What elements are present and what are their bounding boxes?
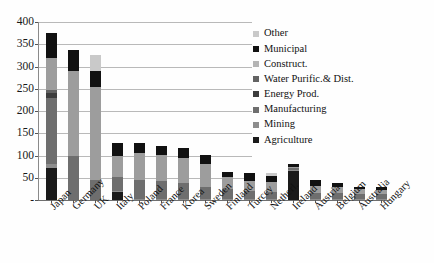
y-tick-mark [35,200,38,201]
y-tick-mark [35,156,38,157]
legend-swatch-icon [253,107,259,113]
y-tick-mark [35,133,38,134]
legend-swatch-icon [253,61,259,67]
legend-item-label: Manufacturing [264,104,326,115]
bar-segment [46,98,57,165]
bar-segment [68,50,79,71]
bar-segment [244,173,255,181]
bar-segment [134,143,145,153]
bar-segment [200,155,211,165]
legend-item-label: Other [264,28,288,39]
y-tick-label: 400 [17,16,34,28]
legend-item-label: Construct. [264,59,307,70]
y-tick-mark [35,89,38,90]
bar-segment [112,177,123,191]
bar-segment [46,33,57,57]
legend-swatch-icon [253,76,259,82]
y-tick-mark [35,22,38,23]
bar-segment [178,148,189,159]
legend-swatch-icon [253,137,259,143]
y-tick-label: 150 [17,127,34,139]
y-tick-label: 100 [17,150,34,162]
y-tick-mark [35,67,38,68]
bar-poland [134,143,145,200]
legend-item[interactable]: Agriculture [253,132,383,147]
bar-japan [46,33,57,200]
x-axis-labels: JapanGermanyUKItalyPolandFranceKoreaSwed… [0,200,434,263]
bar-segment [68,71,79,156]
legend-item-label: Energy Prod. [264,89,319,100]
legend-item[interactable]: Manufacturing [253,102,383,117]
legend-item[interactable]: Construct. [253,56,383,71]
legend-swatch-icon [253,31,259,37]
bar-segment [156,146,167,155]
legend-item[interactable]: Energy Prod. [253,87,383,102]
legend-item-label: Municipal [264,44,307,55]
bar-segment [112,156,123,177]
legend-item-label: Agriculture [264,135,312,146]
y-axis-labels: 40035030025020015010050- [0,22,34,201]
legend-item[interactable]: Mining [253,117,383,132]
y-tick-label: 350 [17,38,34,50]
bar-segment [134,153,145,181]
legend-item[interactable]: Municipal [253,41,383,56]
chart-figure: 40035030025020015010050- JapanGermanyUKI… [0,0,434,263]
y-tick-label: 50 [23,172,35,184]
y-tick-label: 200 [17,105,34,117]
bar-segment [200,164,211,186]
legend-item-label: Water Purific.& Dist. [264,74,354,85]
legend-item-label: Mining [264,119,295,130]
bar-segment [156,155,167,182]
bar-germany [68,50,79,200]
legend-swatch-icon [253,46,259,52]
bar-segment [178,158,189,183]
legend-swatch-icon [253,91,259,97]
legend-item[interactable]: Water Purific.& Dist. [253,72,383,87]
bar-segment [90,55,101,71]
chart-legend: OtherMunicipalConstruct.Water Purific.& … [253,26,383,148]
legend-item[interactable]: Other [253,26,383,41]
y-tick-mark [35,178,38,179]
bar-segment [46,58,57,90]
bar-segment [90,87,101,180]
bar-segment [112,143,123,155]
legend-swatch-icon [253,122,259,128]
bar-italy [112,143,123,200]
y-tick-mark [35,111,38,112]
y-tick-label: 300 [17,61,34,73]
y-tick-label: 250 [17,83,34,95]
y-tick-mark [35,44,38,45]
bar-segment [90,71,101,87]
